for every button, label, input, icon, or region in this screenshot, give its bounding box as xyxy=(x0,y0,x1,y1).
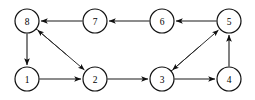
node-label-1: 1 xyxy=(25,75,30,85)
directed-graph-figure: 87651234 xyxy=(0,0,255,100)
node-label-7: 7 xyxy=(93,17,98,27)
graph-node-6[interactable]: 6 xyxy=(150,9,174,33)
graph-edge-5-to-3 xyxy=(173,45,201,69)
edge-layer xyxy=(27,21,229,79)
node-label-3: 3 xyxy=(160,75,165,85)
graph-edge-2-to-8 xyxy=(38,30,67,54)
graph-node-2[interactable]: 2 xyxy=(83,67,107,91)
node-label-5: 5 xyxy=(227,17,232,27)
graph-node-3[interactable]: 3 xyxy=(150,67,174,91)
node-label-4: 4 xyxy=(227,75,232,85)
node-label-8: 8 xyxy=(25,17,30,27)
graph-node-5[interactable]: 5 xyxy=(217,9,241,33)
graph-node-1[interactable]: 1 xyxy=(15,67,39,91)
graph-node-7[interactable]: 7 xyxy=(83,9,107,33)
node-label-2: 2 xyxy=(93,75,98,85)
graph-canvas: 87651234 xyxy=(0,0,255,100)
graph-node-4[interactable]: 4 xyxy=(217,67,241,91)
graph-node-8[interactable]: 8 xyxy=(15,9,39,33)
node-label-6: 6 xyxy=(160,17,165,27)
